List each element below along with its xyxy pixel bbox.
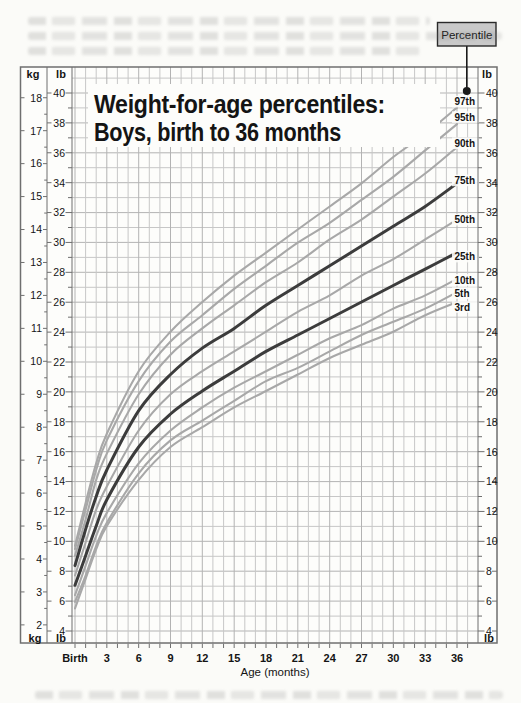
lb-axis-tick-label-left: 28 [53,266,65,278]
kg-axis-tick-label: 14 [30,223,42,235]
age-axis-tick-label: 15 [228,652,240,664]
kg-axis-tick-label: 16 [30,157,42,169]
kg-axis-tick-label: 7 [36,454,42,466]
age-axis-tick-label: Birth [62,652,88,664]
percentile-curve-label: 50th [455,214,476,225]
kg-axis-tick-label: 6 [36,487,42,499]
lb-axis-tick-label-left: 18 [53,416,65,428]
kg-axis-tick-label: 3 [36,586,42,598]
kg-axis-tick-label: 4 [36,553,42,565]
lb-axis-tick-label-left: 38 [53,117,65,129]
growth-chart: 97th95th90th75th50th25th10th5th3rd Weigh… [0,0,521,703]
lb-axis-tick-label-right: 20 [486,386,498,398]
lb-axis-tick-label-left: 36 [53,147,65,159]
lb-axis-tick-label-right: 26 [486,296,498,308]
lb-axis-tick-label-right: 10 [486,535,498,547]
lb-axis-tick-label-right: 40 [486,87,498,99]
kg-axis-tick-label: 12 [30,289,42,301]
age-axis-tick-label: 21 [292,652,304,664]
age-axis-tick-label: 18 [260,652,272,664]
percentile-curve-label: 10th [455,275,476,286]
lb-axis-tick-label-left: 14 [53,475,65,487]
kg-axis-tick-label: 18 [30,92,42,104]
lb-axis-tick-label-left: 20 [53,386,65,398]
chart-title-block: Weight-for-age percentiles: Boys, birth … [88,84,440,147]
chart-title-line-1: Weight-for-age percentiles: [94,90,385,118]
x-axis-title: Age (months) [240,666,309,678]
lb-axis-tick-label-left: 22 [53,356,65,368]
age-axis-tick-label: 27 [355,652,367,664]
lb-unit-top-left: lb [56,68,66,80]
lb-axis-tick-label-left: 34 [53,177,65,189]
kg-axis-tick-label: 8 [36,421,42,433]
age-axis-tick-label: 30 [387,652,399,664]
lb-axis-tick-label-left: 40 [53,87,65,99]
lb-unit-bottom-right: lb [484,632,494,644]
kg-unit-top: kg [27,68,40,80]
percentile-curve-label: 90th [455,138,476,149]
kg-axis-tick-label: 5 [36,520,42,532]
lb-axis-tick-label-right: 34 [486,177,498,189]
lb-unit-top-right: lb [482,68,492,80]
lb-axis-tick-label-left: 10 [53,535,65,547]
kg-axis-tick-label: 11 [31,322,42,334]
lb-axis-tick-label-right: 8 [486,565,492,577]
callout-marker-dot [463,87,471,95]
percentile-curve-label: 5th [455,288,470,299]
lb-axis-tick-label-right: 18 [486,416,498,428]
percentile-curve-label: 25th [455,251,476,262]
lb-axis-tick-label-right: 16 [486,446,498,458]
kg-axis-tick-label: 2 [36,619,42,631]
background-bleed-text [28,17,430,25]
age-axis-tick-label: 6 [136,652,142,664]
lb-axis-tick-label-left: 16 [53,446,65,458]
lb-axis-tick-label-right: 36 [486,147,498,159]
lb-axis-tick-label-left: 8 [59,565,65,577]
lb-axis-tick-label-left: 12 [53,505,65,517]
lb-axis-tick-label-left: 24 [53,326,65,338]
percentile-curve-label: 75th [455,175,476,186]
background-bleed-text [35,691,503,699]
lb-axis-tick-label-left: 26 [53,296,65,308]
background-bleed-text [28,47,426,55]
lb-axis-tick-label-right: 32 [486,206,498,218]
age-axis-tick-label: 33 [419,652,431,664]
age-axis-tick-label: 12 [196,652,208,664]
lb-axis-tick-label-left: 30 [53,236,65,248]
lb-axis-tick-label-right: 38 [486,117,498,129]
lb-axis-tick-label-right: 30 [486,236,498,248]
kg-axis-tick-label: 10 [30,355,42,367]
lb-axis-tick-label-right: 22 [486,356,498,368]
kg-axis-tick-label: 13 [30,256,42,268]
lb-axis-tick-label-right: 14 [486,475,498,487]
scanned-page: 97th95th90th75th50th25th10th5th3rd Weigh… [0,0,521,703]
age-axis-tick-label: 24 [324,652,337,664]
background-bleed-text [28,32,502,40]
lb-axis-tick-label-left: 32 [53,206,65,218]
lb-axis-tick-label-left: 6 [59,595,65,607]
lb-axis-tick-label-right: 24 [486,326,498,338]
percentile-curve-label: 97th [455,96,476,107]
lb-axis-tick-label-right: 12 [486,505,498,517]
lb-unit-bottom-left: lb [56,632,66,644]
lb-axis-tick-label-right: 28 [486,266,498,278]
age-axis-tick-label: 36 [451,652,463,664]
percentile-curve-label: 95th [455,112,476,123]
percentile-curve-label: 3rd [455,302,471,313]
age-axis-tick-label: 3 [104,652,110,664]
age-axis-tick-label: 9 [167,652,173,664]
kg-axis-tick-label: 17 [30,125,42,137]
chart-title-line-2: Boys, birth to 36 months [94,118,341,146]
kg-axis-tick-label: 9 [36,388,42,400]
kg-unit-bottom: kg [29,632,42,644]
kg-axis-tick-label: 15 [30,190,42,202]
lb-axis-tick-label-right: 6 [486,595,492,607]
